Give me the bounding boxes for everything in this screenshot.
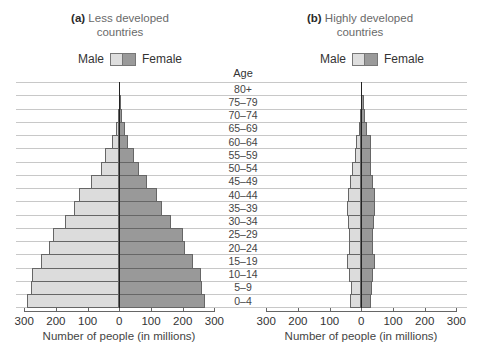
female-bar [361, 201, 374, 215]
male-bar [27, 294, 119, 308]
female-bar [119, 201, 162, 215]
male-bar [348, 215, 361, 229]
chart-b-title-tag: (b) [307, 12, 322, 24]
center-axis-line [119, 82, 120, 308]
female-bar [119, 175, 147, 189]
x-tick-label: 300 [251, 315, 281, 327]
male-bar [32, 268, 119, 282]
x-tick-label: 100 [136, 315, 166, 327]
age-label: 30–34 [218, 215, 268, 228]
female-bar [119, 162, 138, 176]
female-bar [119, 268, 201, 282]
age-label: 15–19 [218, 255, 268, 268]
female-bar [119, 148, 134, 162]
chart-b-title: (b) Highly developed countries [280, 11, 440, 39]
x-tick [119, 308, 120, 312]
legend-female-label: Female [142, 52, 182, 66]
female-bar [119, 188, 157, 202]
x-tick-label: 0 [104, 315, 134, 327]
legend-female-swatch [123, 53, 136, 66]
male-bar [53, 228, 119, 242]
age-label: 80+ [218, 83, 268, 96]
female-bar [361, 135, 371, 149]
male-bar [41, 254, 120, 268]
x-tick [56, 308, 57, 312]
male-bar [347, 254, 361, 268]
female-bar [361, 268, 373, 282]
male-bar [349, 268, 361, 282]
x-tick-label: 200 [410, 315, 440, 327]
x-tick-label: 100 [315, 315, 345, 327]
male-bar [49, 241, 119, 255]
female-bar [361, 228, 373, 242]
age-label: 75–79 [218, 96, 268, 109]
x-tick [214, 308, 215, 312]
female-bar [119, 122, 125, 136]
male-bar [348, 188, 361, 202]
age-label: 20–24 [218, 242, 268, 255]
male-bar [105, 148, 119, 162]
female-bar [119, 294, 205, 308]
chart-a-xlabel: Number of people (in millions) [19, 330, 219, 342]
legend-female-label: Female [384, 52, 424, 66]
age-axis-header: Age [218, 67, 268, 79]
age-label: 45–49 [218, 175, 268, 188]
female-bar [361, 175, 373, 189]
x-tick [330, 308, 331, 312]
x-tick [393, 308, 394, 312]
male-bar [74, 201, 119, 215]
age-label: 70–74 [218, 109, 268, 122]
male-bar [350, 294, 361, 308]
legend-male-label: Male [320, 52, 346, 66]
x-tick-label: 300 [9, 315, 39, 327]
chart-a-legend: Male Female [78, 52, 182, 66]
male-bar [349, 241, 362, 255]
female-bar [119, 135, 128, 149]
chart-a-title-tag: (a) [71, 12, 85, 24]
chart-b-xlabel: Number of people (in millions) [261, 330, 461, 342]
female-bar [361, 122, 366, 136]
x-tick [88, 308, 89, 312]
chart-b-title-line2: countries [337, 26, 384, 38]
chart-a-title-text: Less developed [88, 12, 169, 24]
legend-male-swatch [110, 53, 123, 66]
x-tick [24, 308, 25, 312]
male-bar [65, 215, 119, 229]
x-tick [266, 308, 267, 312]
x-tick-label: 100 [73, 315, 103, 327]
female-bar [119, 281, 201, 295]
male-bar [350, 175, 361, 189]
male-bar [349, 228, 362, 242]
x-tick-label: 300 [441, 315, 471, 327]
age-label: 35–39 [218, 202, 268, 215]
female-bar [361, 294, 371, 308]
x-tick-label: 300 [199, 315, 229, 327]
chart-a-title: (a) Less developed countries [40, 11, 200, 39]
female-bar [119, 254, 193, 268]
age-label: 10–14 [218, 268, 268, 281]
x-tick [456, 308, 457, 312]
center-axis-line [361, 82, 362, 308]
female-bar [119, 215, 171, 229]
female-bar [361, 188, 375, 202]
x-tick-label: 0 [346, 315, 376, 327]
female-bar [361, 215, 374, 229]
legend-male-swatch [352, 53, 365, 66]
age-label: 0–4 [218, 295, 268, 308]
legend-male-label: Male [78, 52, 104, 66]
x-tick [361, 308, 362, 312]
x-tick [425, 308, 426, 312]
age-label: 60–64 [218, 136, 268, 149]
male-bar [79, 188, 119, 202]
x-tick-label: 200 [41, 315, 71, 327]
female-bar [361, 148, 371, 162]
female-bar [361, 241, 373, 255]
age-label: 55–59 [218, 149, 268, 162]
male-bar [101, 162, 120, 176]
x-tick-label: 200 [168, 315, 198, 327]
male-bar [347, 201, 361, 215]
x-tick-label: 100 [378, 315, 408, 327]
x-tick [183, 308, 184, 312]
age-label: 25–29 [218, 228, 268, 241]
female-bar [361, 162, 371, 176]
